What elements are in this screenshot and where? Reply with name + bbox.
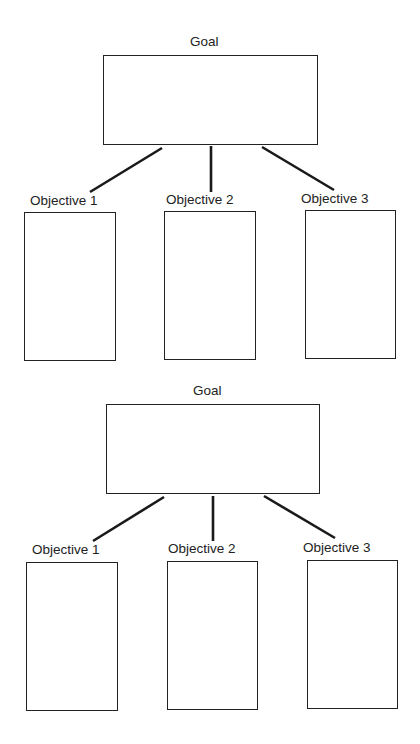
objective-2-label: Objective 2 <box>168 541 236 557</box>
objective-2-box[interactable] <box>164 211 256 360</box>
objective-2-label: Objective 2 <box>166 192 234 208</box>
connector-goal-objective-3 <box>262 147 334 190</box>
objective-3-box[interactable] <box>307 560 398 709</box>
goal-label: Goal <box>190 34 219 50</box>
objective-1-box[interactable] <box>24 212 116 361</box>
objective-2-box[interactable] <box>167 561 258 710</box>
connector-goal-objective-1 <box>93 497 164 541</box>
objective-3-label: Objective 3 <box>303 540 371 556</box>
objective-3-box[interactable] <box>305 210 396 359</box>
objective-3-label: Objective 3 <box>301 191 369 207</box>
connector-goal-objective-1 <box>90 148 162 192</box>
objective-1-box[interactable] <box>26 562 118 711</box>
objective-1-label: Objective 1 <box>32 542 100 558</box>
goal-box[interactable] <box>103 55 318 145</box>
objective-1-label: Objective 1 <box>30 193 98 209</box>
goal-box[interactable] <box>106 404 320 494</box>
connector-goal-objective-3 <box>264 496 335 538</box>
goal-label: Goal <box>193 383 222 399</box>
